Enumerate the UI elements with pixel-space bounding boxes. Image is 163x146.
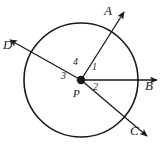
center-point-label: P — [73, 88, 80, 99]
angle-label-3: 3 — [61, 71, 66, 81]
angle-label-2: 2 — [93, 82, 98, 92]
center-point-dot — [77, 76, 85, 84]
angle-label-4: 4 — [73, 57, 78, 67]
ray-label-C: C — [130, 124, 139, 137]
ray-label-B: B — [145, 79, 153, 92]
angle-label-1: 1 — [92, 62, 97, 72]
ray-label-D: D — [3, 38, 12, 51]
ray-label-A: A — [104, 4, 112, 17]
geometry-diagram: A B C D 1 2 3 4 P — [0, 0, 163, 146]
ray-PA-line — [81, 12, 124, 80]
ray-PD-line — [10, 40, 81, 80]
